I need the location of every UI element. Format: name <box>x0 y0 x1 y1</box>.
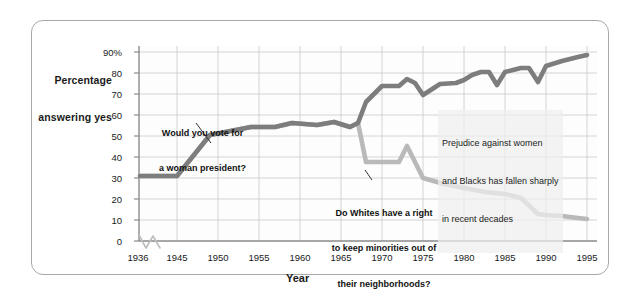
callout-whites-neighborhoods-line1: Do Whites have a right <box>311 208 457 220</box>
note-line2: and Blacks has fallen sharply <box>442 175 559 188</box>
callout-woman-president-line2: a woman president? <box>140 163 265 175</box>
callout-woman-president: Would you vote for a woman president? <box>140 104 265 199</box>
y-axis-ticks <box>134 52 139 241</box>
note-prejudice-fallen: Prejudice against women and Blacks has f… <box>438 110 563 253</box>
note-line1: Prejudice against women <box>442 137 559 150</box>
callout-whites-neighborhoods: Do Whites have a right to keep minoritie… <box>311 184 457 296</box>
figure-root: Percentage answering yes 90% 80 70 60 50… <box>0 0 641 296</box>
callout-whites-neighborhoods-line3: their neighborhoods? <box>311 279 457 291</box>
callout-woman-president-line1: Would you vote for <box>140 128 265 140</box>
note-line3: in recent decades <box>442 213 559 226</box>
callout-whites-neighborhoods-line2: to keep minorities out of <box>311 243 457 255</box>
